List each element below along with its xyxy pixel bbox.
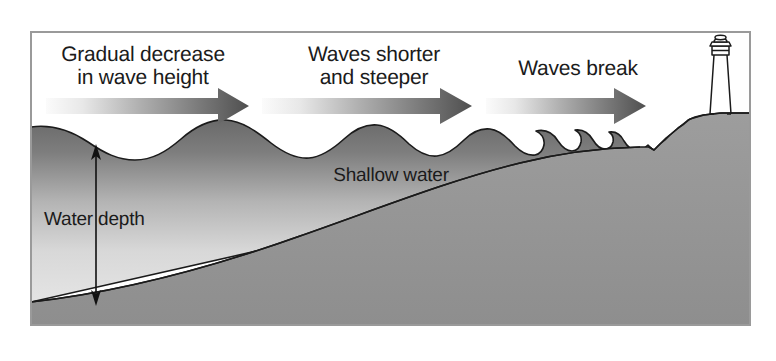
label-waves-break: Waves break <box>498 58 658 81</box>
label-water-depth: Water depth <box>44 210 174 231</box>
label-shallow-water: Shallow water <box>306 166 476 187</box>
wave-diagram: Gradual decrease in wave height Waves sh… <box>0 0 776 361</box>
label-waves-shorter: Waves shorter and steeper <box>292 44 456 89</box>
label-gradual-decrease: Gradual decrease in wave height <box>48 44 238 89</box>
